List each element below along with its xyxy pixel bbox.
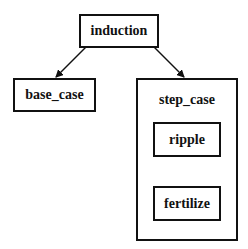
node-ripple: ripple — [153, 122, 221, 157]
node-fertilize: fertilize — [153, 186, 221, 221]
node-label: fertilize — [164, 196, 210, 212]
group-title: step_case — [138, 92, 236, 108]
node-induction: induction — [79, 14, 159, 48]
node-label: base_case — [25, 87, 83, 103]
edge-induction-base-case — [56, 47, 86, 77]
node-base-case: base_case — [13, 78, 96, 112]
node-label: induction — [91, 23, 148, 39]
node-label: ripple — [169, 132, 205, 148]
edge-induction-step-case — [154, 47, 184, 77]
